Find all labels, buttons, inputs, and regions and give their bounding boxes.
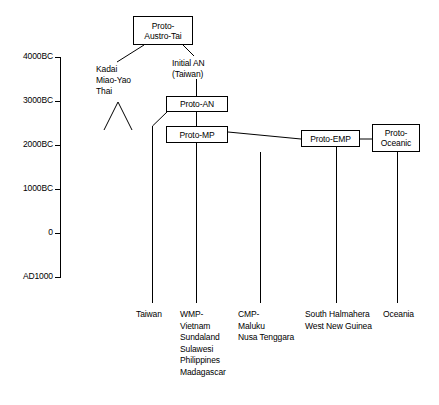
axis-tick-label-4000bc: 4000BC (23, 52, 53, 61)
diagram-canvas: 4000BC 3000BC 2000BC 1000BC 0 AD1000 Pro… (0, 0, 439, 405)
leaf-label-cmp: CMP- Maluku Nusa Tenggara (238, 309, 294, 344)
leaf-label-oceania: Oceania (383, 309, 414, 321)
label-initial-an-taiwan: Initial AN (Taiwan) (172, 58, 205, 80)
node-proto-oceanic[interactable]: Proto- Oceanic (372, 124, 420, 152)
edge-pat-to-initial-an (183, 45, 194, 56)
edge-kadai-fork-left (104, 102, 118, 130)
axis-tick-label-ad1000: AD1000 (23, 272, 53, 281)
leaf-label-wmp: WMP- Vietnam Sundaland Sulawesi Philippi… (180, 309, 226, 378)
leaf-label-south-halmahera: South Halmahera West New Guinea (305, 309, 372, 332)
label-kadai-miao-yao-thai: Kadai Miao-Yao Thai (96, 64, 131, 97)
axis-tick-label-3000bc: 3000BC (23, 96, 53, 105)
node-proto-emp[interactable]: Proto-EMP (301, 130, 360, 147)
edge-pat-to-kadai (117, 45, 144, 62)
leaf-label-taiwan: Taiwan (136, 309, 162, 321)
axis-tick-label-2000bc: 2000BC (23, 140, 53, 149)
edge-kadai-fork-right (118, 102, 132, 130)
node-proto-an[interactable]: Proto-AN (166, 96, 228, 112)
node-proto-mp[interactable]: Proto-MP (166, 126, 228, 143)
axis-tick-label-1000bc: 1000BC (23, 184, 53, 193)
node-proto-austro-tai[interactable]: Proto- Austro-Tai (133, 16, 193, 45)
edge-proto-mp-to-proto-emp (228, 132, 301, 139)
axis-tick-label-0: 0 (48, 228, 53, 237)
